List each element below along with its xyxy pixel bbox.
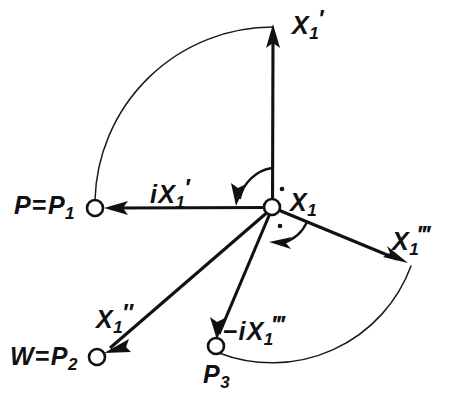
arc-upper-quarter bbox=[95, 27, 273, 200]
label-x1-double-prime: X1″ bbox=[96, 302, 135, 336]
label-x1-triple-prime: X1‴ bbox=[392, 224, 431, 258]
label-i-x1-prime: iX1′ bbox=[150, 177, 192, 211]
angle-arrowhead-upper bbox=[231, 183, 246, 206]
vector-x1-prime-shaft bbox=[273, 40, 274, 207]
diagram-root: X1′ P=P1 iX1′ X1 X1‴ X1″ W=P2 −iX1‴ P3 bbox=[0, 0, 455, 406]
node-p2[interactable] bbox=[89, 349, 105, 365]
angle-arc-upper bbox=[240, 168, 272, 198]
label-x1-prime: X1′ bbox=[292, 8, 326, 42]
origin-node-x1[interactable] bbox=[264, 199, 280, 215]
right-angle-dot-upper bbox=[280, 187, 285, 192]
angle-arrowhead-lower bbox=[269, 237, 292, 249]
label-minus-i-x1-triple-prime: −iX1‴ bbox=[223, 314, 286, 348]
node-p1[interactable] bbox=[87, 200, 103, 216]
right-angle-dot-lower bbox=[278, 224, 283, 229]
label-x1: X1 bbox=[290, 190, 317, 219]
label-p3: P3 bbox=[203, 362, 230, 391]
label-w-equals-p2: W=P2 bbox=[10, 344, 77, 373]
node-p3[interactable] bbox=[208, 338, 224, 354]
label-p-equals-p1: P=P1 bbox=[14, 193, 75, 222]
